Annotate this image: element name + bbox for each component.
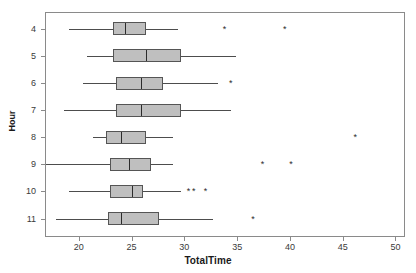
outlier-marker: * [287,161,295,167]
y-tick-mark [41,83,45,84]
box-iqr [110,185,143,198]
x-tick-label: 35 [222,242,252,252]
y-tick-label-6: 6 [8,78,36,88]
x-tick-label: 30 [169,242,199,252]
outlier-marker: * [351,134,359,140]
whisker-high [143,191,181,192]
median-line [121,213,122,224]
whisker-low [46,164,110,165]
x-tick-mark [184,237,185,241]
y-tick-mark [41,110,45,111]
boxplot-figure: 20253035404550 4567891011 ********** Tot… [0,0,416,273]
whisker-low [69,191,110,192]
x-axis-title: TotalTime [0,255,416,266]
whisker-low [87,56,112,57]
outlier-marker: * [227,80,235,86]
whisker-high [159,219,213,220]
x-tick-label: 50 [380,242,410,252]
median-line [129,159,130,170]
whisker-low [93,137,107,138]
x-tick-label: 40 [275,242,305,252]
box-iqr [106,131,146,144]
outlier-marker: * [249,216,257,222]
x-tick-label: 45 [328,242,358,252]
outlier-marker: * [190,188,198,194]
box-iqr [110,158,150,171]
x-tick-mark [395,237,396,241]
whisker-high [181,110,231,111]
x-tick-mark [237,237,238,241]
median-line [121,132,122,143]
whisker-low [69,29,112,30]
y-tick-label-4: 4 [8,24,36,34]
whisker-high [146,137,172,138]
box-iqr [116,77,164,90]
whisker-low [56,219,109,220]
y-tick-label-9: 9 [8,159,36,169]
median-line [125,23,126,34]
whisker-high [163,83,218,84]
y-tick-mark [41,219,45,220]
whisker-high [151,164,173,165]
whisker-low [64,110,116,111]
x-tick-mark [343,237,344,241]
y-tick-mark [41,137,45,138]
x-tick-label: 25 [117,242,147,252]
y-tick-mark [41,164,45,165]
y-tick-mark [41,191,45,192]
y-tick-label-5: 5 [8,51,36,61]
box-iqr [108,212,159,225]
outlier-marker: * [201,188,209,194]
median-line [146,50,147,61]
whisker-low [83,83,116,84]
whisker-high [181,56,236,57]
x-tick-mark [290,237,291,241]
outlier-marker: * [281,26,289,32]
plot-area [45,12,405,237]
x-tick-mark [132,237,133,241]
box-iqr [113,22,147,35]
y-tick-mark [41,56,45,57]
y-tick-label-10: 10 [8,186,36,196]
whisker-high [146,29,178,30]
median-line [132,186,133,197]
y-axis-title: Hour [7,91,17,151]
x-tick-label: 20 [64,242,94,252]
y-tick-mark [41,29,45,30]
median-line [141,105,142,116]
outlier-marker: * [220,26,228,32]
median-line [141,78,142,89]
x-tick-mark [79,237,80,241]
box-iqr [116,104,181,117]
y-tick-label-11: 11 [8,214,36,224]
outlier-marker: * [258,161,266,167]
